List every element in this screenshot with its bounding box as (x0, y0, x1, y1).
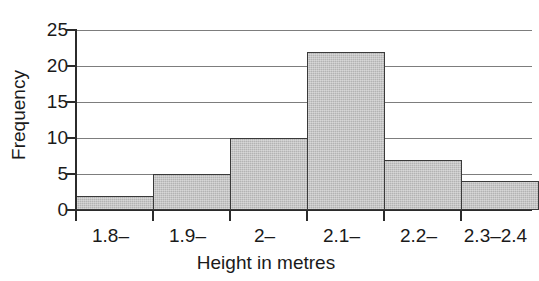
y-axis-line (75, 29, 77, 211)
y-tick-label: 15 (28, 92, 68, 111)
histogram-bar (230, 138, 308, 210)
x-tick-mark (229, 210, 231, 221)
y-tick-mark (66, 137, 76, 139)
x-tick-label: 2– (254, 225, 275, 247)
bars-layer (76, 30, 532, 210)
y-tick-label: 20 (28, 56, 68, 75)
x-tick-mark (152, 210, 154, 221)
x-tick-label: 1.9– (169, 225, 206, 247)
x-tick-mark (75, 210, 77, 221)
x-tick-label: 1.8– (92, 225, 129, 247)
y-tick-mark (66, 173, 76, 175)
y-tick-mark (66, 29, 76, 31)
x-tick-label: 2.2– (400, 225, 437, 247)
plot-area (76, 30, 532, 210)
histogram-bar (461, 181, 539, 210)
y-tick-mark (66, 101, 76, 103)
x-tick-label: 2.3–2.4 (464, 225, 527, 247)
histogram-bar (153, 174, 231, 210)
y-tick-mark (66, 65, 76, 67)
x-tick-mark (383, 210, 385, 221)
x-tick-mark (460, 210, 462, 221)
histogram-bar (76, 196, 154, 210)
histogram-bar (307, 52, 385, 210)
y-axis-tick-labels: 0510152025 (28, 0, 68, 281)
y-tick-label: 5 (28, 164, 68, 183)
x-axis-title: Height in metres (0, 252, 532, 274)
histogram-bar (384, 160, 462, 210)
x-tick-label: 2.1– (323, 225, 360, 247)
x-tick-mark (306, 210, 308, 221)
y-tick-label: 25 (28, 20, 68, 39)
y-tick-label: 10 (28, 128, 68, 147)
y-tick-label: 0 (28, 200, 68, 219)
x-axis-line (66, 210, 532, 212)
